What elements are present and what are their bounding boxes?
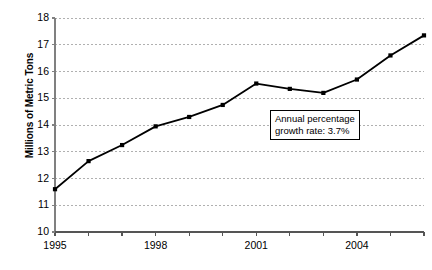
gridlines-group bbox=[55, 18, 424, 205]
growth-rate-annotation: Annual percentage growth rate: 3.7% bbox=[270, 110, 360, 140]
data-point-2003 bbox=[321, 91, 325, 95]
y-tick-label-18: 18 bbox=[27, 11, 49, 23]
x-tick-label-1995: 1995 bbox=[35, 239, 75, 251]
data-point-2005 bbox=[388, 53, 392, 57]
data-line-group bbox=[55, 35, 424, 189]
x-tick-label-2004: 2004 bbox=[337, 239, 377, 251]
y-tick-label-10: 10 bbox=[27, 225, 49, 237]
data-point-1998 bbox=[154, 124, 158, 128]
y-tick-label-17: 17 bbox=[27, 38, 49, 50]
data-point-2000 bbox=[221, 103, 225, 107]
line-chart-plot bbox=[0, 0, 432, 270]
data-point-2004 bbox=[355, 77, 359, 81]
data-point-2002 bbox=[288, 87, 292, 91]
data-point-1997 bbox=[120, 143, 124, 147]
y-tick-label-13: 13 bbox=[27, 145, 49, 157]
y-tick-label-14: 14 bbox=[27, 118, 49, 130]
data-point-2006 bbox=[422, 33, 426, 37]
x-tick-label-2001: 2001 bbox=[236, 239, 276, 251]
annotation-line-1: Annual percentage bbox=[275, 113, 355, 125]
data-series-line bbox=[55, 35, 424, 189]
data-point-1999 bbox=[187, 115, 191, 119]
y-tick-label-15: 15 bbox=[27, 91, 49, 103]
annotation-line-2: growth rate: 3.7% bbox=[275, 125, 355, 137]
data-markers-group bbox=[53, 33, 426, 191]
x-tick-marks-group bbox=[55, 232, 424, 236]
chart-container: Millions of Metric Tons 1011121314151617… bbox=[0, 0, 432, 270]
y-tick-label-11: 11 bbox=[27, 198, 49, 210]
y-tick-label-12: 12 bbox=[27, 172, 49, 184]
data-point-1995 bbox=[53, 187, 57, 191]
data-point-2001 bbox=[254, 81, 258, 85]
x-tick-label-1998: 1998 bbox=[136, 239, 176, 251]
y-tick-label-16: 16 bbox=[27, 65, 49, 77]
data-point-1996 bbox=[86, 159, 90, 163]
